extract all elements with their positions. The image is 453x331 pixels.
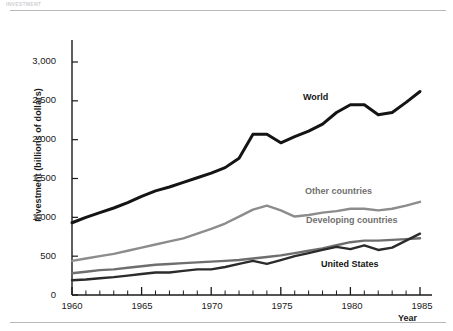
series-line-world bbox=[72, 92, 420, 223]
series-line-developing-countries bbox=[72, 238, 420, 273]
series-line-other-countries bbox=[72, 202, 420, 261]
plot-area bbox=[0, 0, 453, 331]
figure-container: INVESTMENT Investment (billions of dolla… bbox=[0, 0, 453, 331]
